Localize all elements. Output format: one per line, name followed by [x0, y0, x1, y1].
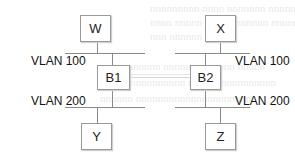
vlan100-right-label: VLAN 100	[235, 55, 290, 67]
node-x-label: X	[216, 21, 225, 36]
vlan200-left-label: VLAN 200	[31, 95, 86, 107]
node-z: Z	[205, 123, 236, 150]
connection-lines	[0, 0, 295, 159]
node-w: W	[80, 15, 111, 42]
node-b1: B1	[97, 65, 130, 90]
vlan200-right-label: VLAN 200	[235, 95, 290, 107]
node-x: X	[205, 15, 236, 42]
node-y: Y	[81, 123, 112, 150]
node-b2: B2	[190, 65, 221, 90]
node-y-label: Y	[92, 129, 101, 144]
vlan100-left-label: VLAN 100	[31, 55, 86, 67]
node-b2-label: B2	[198, 70, 214, 85]
node-w-label: W	[89, 21, 101, 36]
node-b1-label: B1	[106, 70, 122, 85]
node-z-label: Z	[217, 129, 225, 144]
